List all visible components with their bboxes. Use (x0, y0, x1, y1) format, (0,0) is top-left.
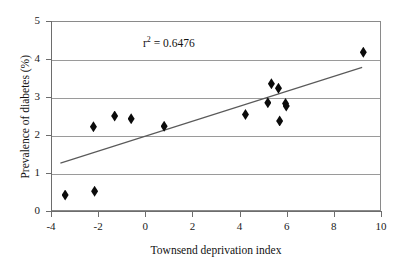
trendline-group (0, 0, 406, 271)
r-squared-suffix: = 0.6476 (151, 37, 195, 49)
r-squared-annotation: r2 = 0.6476 (143, 36, 195, 49)
scatter-chart-figure: 012345 -4-20246810 r2 = 0.6476 Townsend … (0, 0, 406, 271)
x-axis-title: Townsend deprivation index (51, 245, 381, 257)
y-axis-title: Prevalence of diabetes (%) (20, 22, 32, 212)
trendline-path (60, 67, 362, 163)
